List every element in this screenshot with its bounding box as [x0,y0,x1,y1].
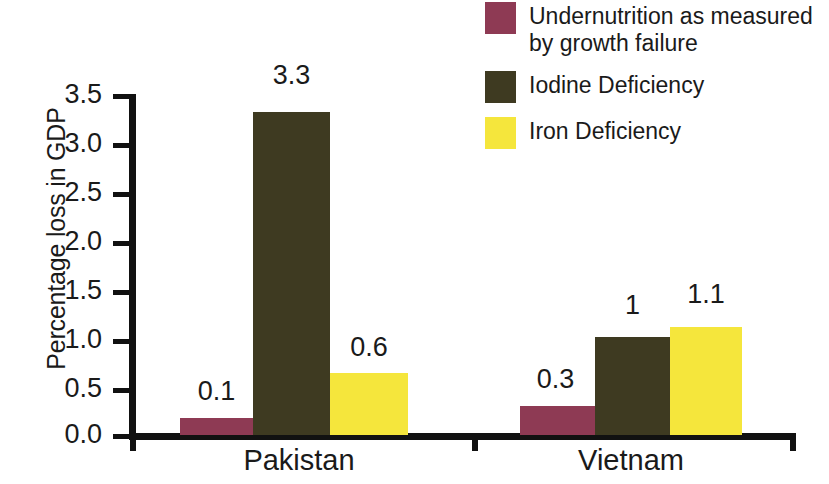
bar-pakistan-iron-deficiency[interactable] [330,373,408,435]
legend-item-iron-deficiency[interactable]: Iron Deficiency [485,117,829,149]
bar-vietnam-iron-deficiency[interactable] [670,327,742,435]
legend-item-iodine-deficiency[interactable]: Iodine Deficiency [485,71,829,103]
legend-swatch-iodine-deficiency-icon [485,71,516,103]
y-tick-mark-1.0 [113,339,130,344]
bar-value-vietnam-iodine-deficiency: 1 [595,292,670,319]
legend: Undernutrition as measured by growth fai… [485,2,829,159]
bar-value-pakistan-iron-deficiency: 0.6 [330,334,408,361]
y-axis-line [129,94,136,439]
y-tick-label-0.0: 0.0 [40,421,102,448]
bar-value-vietnam-iron-deficiency: 1.1 [670,281,742,308]
y-tick-label-2.0: 2.0 [40,228,102,255]
y-tick-label-3.5: 3.5 [40,81,102,108]
bar-value-pakistan-iodine-deficiency: 3.3 [253,62,330,89]
legend-item-undernutrition[interactable]: Undernutrition as measured by growth fai… [485,2,829,57]
y-tick-label-1.0: 1.0 [40,326,102,353]
x-axis-label-pakistan: Pakistan [194,446,404,475]
y-tick-label-1.5: 1.5 [40,277,102,304]
legend-label-undernutrition: Undernutrition as measured by growth fai… [529,2,829,57]
y-tick-mark-3.5 [113,94,130,99]
y-tick-mark-3.0 [113,143,130,148]
y-tick-label-2.5: 2.5 [40,179,102,206]
y-tick-mark-1.5 [113,290,130,295]
x-axis-label-vietnam: Vietnam [526,446,736,475]
y-tick-label-3.0: 3.0 [40,130,102,157]
y-tick-label-0.5: 0.5 [40,375,102,402]
x-tick-group-separator [472,433,478,451]
bar-value-pakistan-undernutrition: 0.1 [180,378,253,405]
bar-pakistan-iodine-deficiency[interactable] [253,112,330,435]
y-tick-mark-2.0 [113,241,130,246]
legend-label-iodine-deficiency: Iodine Deficiency [529,71,704,99]
bar-vietnam-iodine-deficiency[interactable] [595,337,670,435]
legend-swatch-undernutrition-icon [485,2,516,34]
y-tick-mark-0.0 [113,434,130,439]
bar-vietnam-undernutrition[interactable] [520,406,595,435]
bar-pakistan-undernutrition[interactable] [180,418,253,435]
legend-swatch-iron-deficiency-icon [485,117,516,149]
legend-label-iron-deficiency: Iron Deficiency [529,117,681,145]
bar-chart: Percentage loss in GDP 3.5 3.0 2.5 2.0 1… [0,0,829,484]
y-tick-mark-0.5 [113,388,130,393]
x-tick-end [790,433,796,451]
bar-value-vietnam-undernutrition: 0.3 [518,366,593,393]
x-tick-start [130,433,136,451]
y-tick-mark-2.5 [113,192,130,197]
